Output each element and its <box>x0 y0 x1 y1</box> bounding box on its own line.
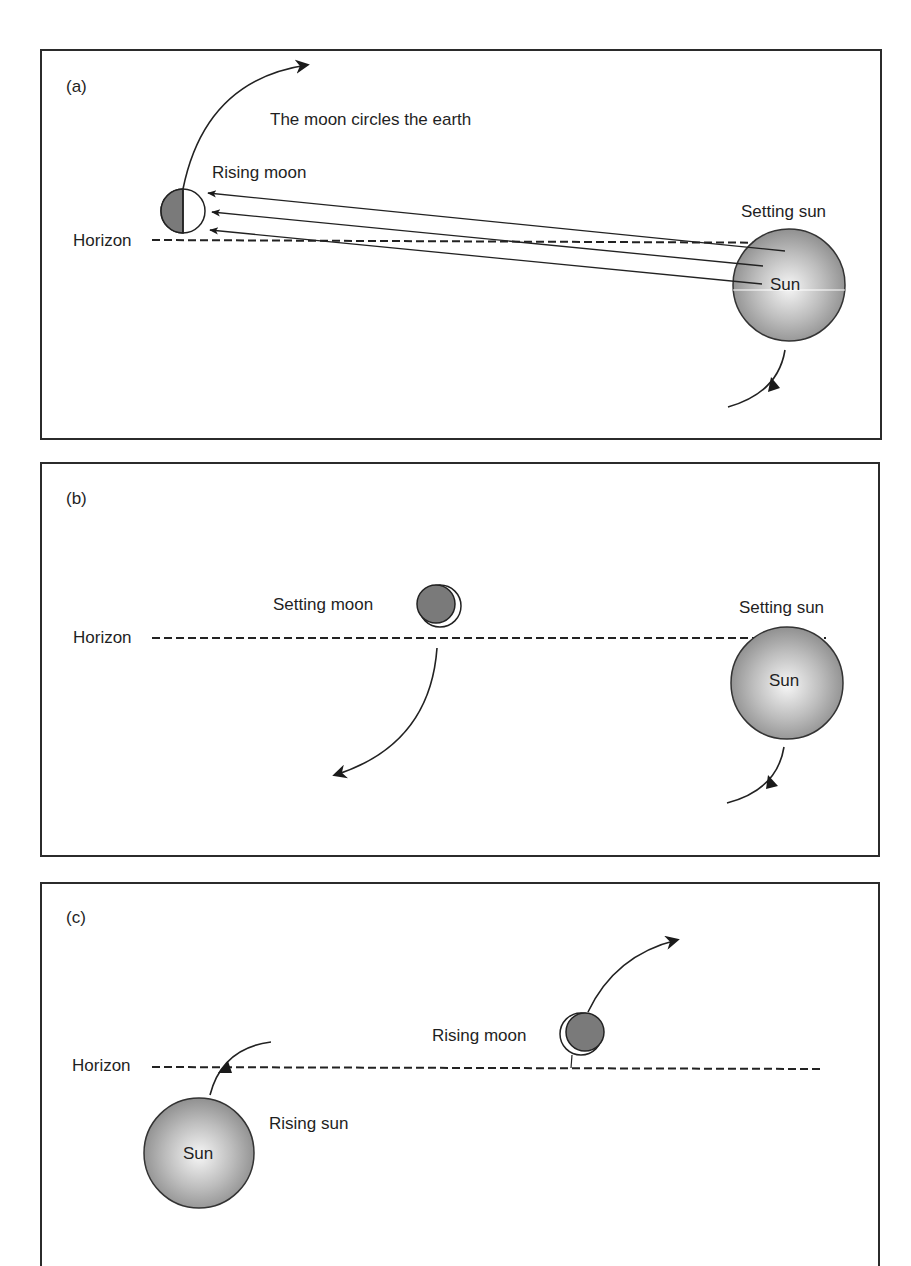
sun-path-arc <box>210 1042 271 1095</box>
panel-b: (b) Horizon Setting moon Sun Setting sun <box>41 463 879 856</box>
sun-text: Sun <box>183 1144 213 1163</box>
light-ray-arrow <box>212 212 763 266</box>
horizon-label: Horizon <box>73 231 132 250</box>
rising-moon-label: Rising moon <box>432 1026 527 1045</box>
moon-crescent-icon <box>417 585 461 627</box>
horizon-line <box>152 240 826 243</box>
panel-a: (a) Horizon Sun Setting sun Rising moon … <box>41 50 881 439</box>
panel-b-label: (b) <box>66 489 87 508</box>
setting-sun-label: Setting sun <box>741 202 826 221</box>
horizon-label: Horizon <box>73 628 132 647</box>
sun-text: Sun <box>769 671 799 690</box>
panel-c-frame <box>41 883 879 1266</box>
rising-moon-label: Rising moon <box>212 163 307 182</box>
panel-c: (c) Horizon Sun Rising sun Rising moon <box>41 883 879 1266</box>
light-ray-arrow <box>210 230 762 284</box>
moon-path-arrow <box>588 940 677 1012</box>
moon-path-arrow <box>335 648 437 775</box>
setting-moon-label: Setting moon <box>273 595 373 614</box>
sun-path-arc <box>727 747 784 803</box>
moon-orbit-label: The moon circles the earth <box>270 110 471 129</box>
arrowhead-icon <box>218 1061 232 1073</box>
rising-sun-label: Rising sun <box>269 1114 348 1133</box>
setting-sun-label: Setting sun <box>739 598 824 617</box>
arrowhead-icon <box>768 377 780 392</box>
moon-half-icon <box>161 189 205 233</box>
sun-path-arc <box>728 350 785 407</box>
sun-text: Sun <box>770 275 800 294</box>
moon-crescent-icon <box>560 1013 604 1055</box>
horizon-label: Horizon <box>72 1056 131 1075</box>
horizon-line <box>152 1067 824 1069</box>
moon-phase-diagram: (a) Horizon Sun Setting sun Rising moon … <box>0 0 911 1266</box>
panel-c-label: (c) <box>66 908 86 927</box>
moon-tick-line <box>571 1055 572 1068</box>
light-ray-arrow <box>208 193 785 251</box>
panel-a-label: (a) <box>66 77 87 96</box>
